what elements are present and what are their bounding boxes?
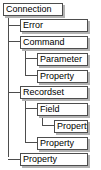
node-recordset[interactable]: Recordset xyxy=(20,86,88,99)
connector-trunk-connection xyxy=(8,14,9,157)
connector-branch-error xyxy=(8,25,20,26)
connector-branch-connection-property xyxy=(8,159,20,160)
node-label: Connection xyxy=(6,5,52,14)
node-connection[interactable]: Connection xyxy=(3,3,63,16)
node-recordset-property[interactable]: Property xyxy=(37,137,88,150)
connector-trunk-command xyxy=(25,48,26,76)
node-label: Field xyxy=(40,105,60,114)
connector-branch-field-property xyxy=(42,125,54,126)
node-label: Parameter xyxy=(40,55,82,64)
connector-branch-command-property xyxy=(25,75,37,76)
connector-branch-recordset-property xyxy=(25,142,37,143)
node-recordset-field[interactable]: Field xyxy=(37,103,88,116)
object-model-tree-diagram: Connection Error Command Parameter Prope… xyxy=(0,0,101,170)
connector-trunk-recordset xyxy=(25,98,26,143)
connector-branch-recordset xyxy=(8,92,20,93)
node-label: Recordset xyxy=(23,88,64,97)
node-label: Property xyxy=(23,155,57,164)
node-label: Command xyxy=(23,38,65,47)
node-label: Property xyxy=(40,72,74,81)
node-label: Error xyxy=(23,21,43,30)
node-connection-property[interactable]: Property xyxy=(20,153,88,166)
node-command-property[interactable]: Property xyxy=(37,70,88,83)
node-label: Property xyxy=(40,139,74,148)
connector-branch-field xyxy=(25,108,37,109)
node-command[interactable]: Command xyxy=(20,36,88,49)
node-label: Property xyxy=(57,122,88,131)
connector-branch-command xyxy=(8,41,20,42)
node-field-property[interactable]: Property xyxy=(54,120,88,133)
node-command-parameter[interactable]: Parameter xyxy=(37,53,88,66)
connector-branch-parameter xyxy=(25,58,37,59)
node-error[interactable]: Error xyxy=(20,19,88,32)
